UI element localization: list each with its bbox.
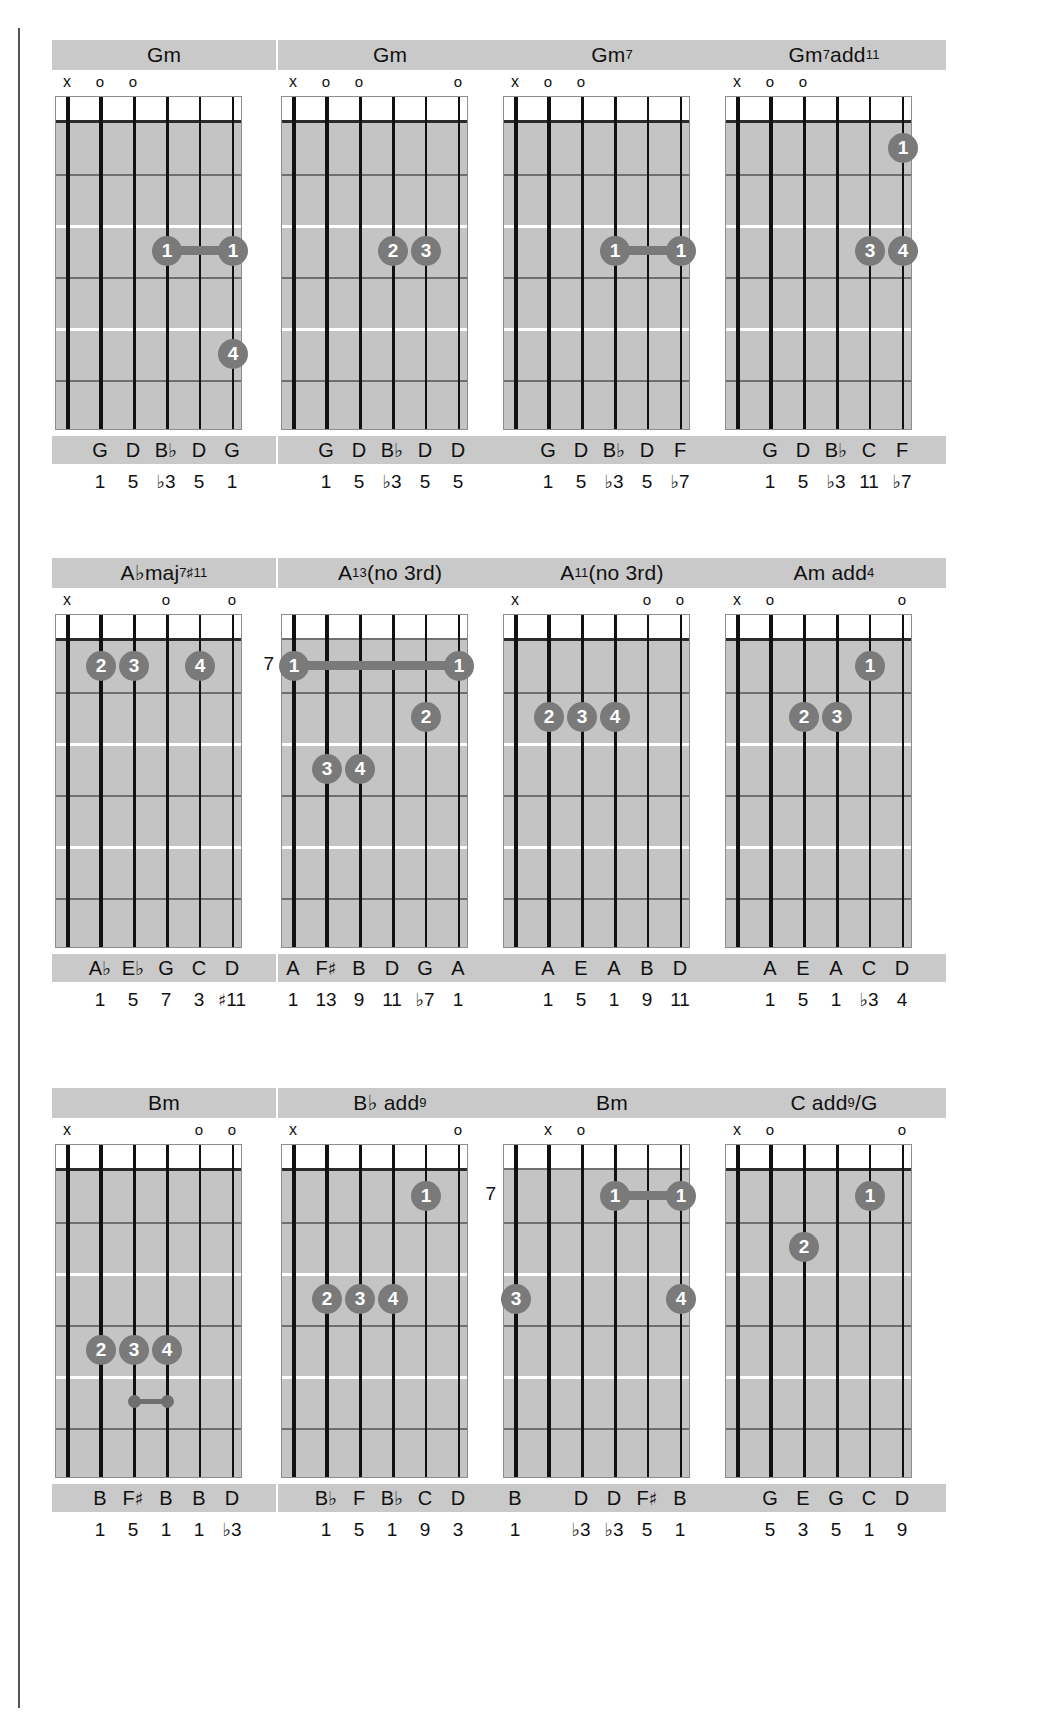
note-names-band: GDB♭CF xyxy=(722,436,946,464)
finger-dot: 1 xyxy=(855,1181,885,1211)
finger-dot: 1 xyxy=(218,236,248,266)
note-name: G xyxy=(82,438,118,462)
string-line xyxy=(199,1145,201,1477)
fret-line xyxy=(504,692,689,694)
fret-line xyxy=(504,1273,689,1276)
fretboard-wrapper: 114 xyxy=(52,96,276,430)
string-line xyxy=(836,1145,839,1477)
fret-line xyxy=(56,1222,241,1224)
muted-string-marker: x xyxy=(59,1121,75,1139)
open-mute-markers: xoo xyxy=(500,588,724,614)
open-mute-markers: xoo xyxy=(52,1118,276,1144)
fret-line xyxy=(56,1325,241,1327)
note-name: C xyxy=(181,956,217,980)
fret-line xyxy=(504,1376,689,1379)
note-name: F♯ xyxy=(308,956,344,981)
fretboard-wrapper: 11 xyxy=(500,96,724,430)
fret-line xyxy=(504,1428,689,1430)
open-mute-markers: xooo xyxy=(278,70,502,96)
note-name: B xyxy=(629,956,665,980)
nut-gap xyxy=(282,97,467,122)
muted-string-marker: x xyxy=(285,1121,301,1139)
string-line xyxy=(514,97,518,429)
muted-string-marker: x xyxy=(540,1121,556,1139)
string-line xyxy=(581,615,584,947)
fret-line xyxy=(282,1325,467,1327)
fretboard-wrapper: 234 xyxy=(52,614,276,948)
finger-dot: 4 xyxy=(185,651,215,681)
chord-name: Gm7add11 xyxy=(722,40,946,70)
fret-line xyxy=(504,277,689,279)
open-mute-markers: xoo xyxy=(722,588,946,614)
note-name: D xyxy=(341,438,377,462)
note-name: G xyxy=(308,438,344,462)
fret-line xyxy=(726,328,911,331)
finger-dot: 1 xyxy=(600,236,630,266)
fret-line xyxy=(726,846,911,849)
fret-line xyxy=(726,1325,911,1327)
finger-dot: 4 xyxy=(888,236,918,266)
fret-line xyxy=(56,949,241,952)
note-name: B xyxy=(497,1486,533,1510)
fret-line xyxy=(282,795,467,797)
interval-label: ♭7 xyxy=(882,470,922,494)
finger-dot: 2 xyxy=(411,702,441,732)
fret-line xyxy=(56,431,241,434)
fretboard-wrapper: 234 xyxy=(52,1144,276,1478)
fret-line xyxy=(726,1428,911,1430)
fret-line xyxy=(282,1222,467,1224)
nut-gap xyxy=(726,615,911,640)
interval-label: 5 xyxy=(438,470,478,494)
open-mute-markers: xo xyxy=(278,1118,502,1144)
nut-line xyxy=(726,120,911,123)
open-mute-markers: xo xyxy=(500,1118,724,1144)
chord-name: A11(no 3rd) xyxy=(500,558,724,588)
fretboard: 234 xyxy=(55,1144,242,1478)
string-line xyxy=(232,1145,234,1477)
string-line xyxy=(803,1145,806,1477)
nut-line xyxy=(282,120,467,123)
finger-dot: 3 xyxy=(119,1335,149,1365)
string-line xyxy=(769,615,773,947)
note-names-band: A♭E♭GCD xyxy=(52,954,276,982)
note-name: D xyxy=(440,438,476,462)
string-line xyxy=(680,615,682,947)
open-string-marker: o xyxy=(318,73,334,91)
note-name: D xyxy=(596,1486,632,1510)
nut-line xyxy=(726,1168,911,1171)
finger-dot: 2 xyxy=(378,236,408,266)
fret-line xyxy=(726,795,911,797)
open-mute-markers: xoo xyxy=(500,70,724,96)
note-name: D xyxy=(440,1486,476,1510)
string-line xyxy=(514,615,518,947)
fret-line xyxy=(726,1479,911,1482)
nut-line xyxy=(56,120,241,123)
open-string-marker: o xyxy=(92,73,108,91)
open-string-marker: o xyxy=(158,591,174,609)
fret-line xyxy=(726,225,911,228)
chord-name: A♭maj7♯11 xyxy=(52,558,276,588)
note-name: A xyxy=(596,956,632,980)
fret-line xyxy=(282,380,467,382)
finger-dot: 2 xyxy=(789,1232,819,1262)
string-line xyxy=(736,615,740,947)
string-line xyxy=(458,97,460,429)
note-name: B♭ xyxy=(596,438,632,462)
open-string-marker: o xyxy=(224,1121,240,1139)
fret-line xyxy=(282,431,467,434)
fret-line xyxy=(56,1376,241,1379)
open-string-marker: o xyxy=(894,1121,910,1139)
string-line xyxy=(166,1145,169,1477)
fretboard: 23 xyxy=(281,96,468,430)
nut-gap xyxy=(726,1145,911,1170)
fret-line xyxy=(282,898,467,900)
finger-dot: 1 xyxy=(600,1181,630,1211)
fret-line xyxy=(504,328,689,331)
finger-dot: 4 xyxy=(600,702,630,732)
note-name: A xyxy=(818,956,854,980)
fret-line xyxy=(726,380,911,382)
fret-line xyxy=(282,1479,467,1482)
interval-row: 1♭3♭351 xyxy=(500,1518,724,1548)
fret-line xyxy=(56,795,241,797)
fret-line xyxy=(504,898,689,900)
